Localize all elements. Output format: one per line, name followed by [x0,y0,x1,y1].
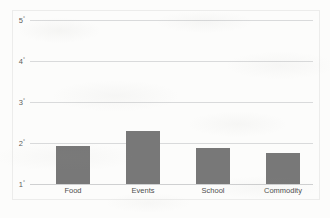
degree-icon: ° [23,97,25,103]
y-axis-tick-3: 3° [19,97,25,108]
x-axis-label-food: Food [64,186,81,195]
x-axis-labels: Food Events School Commodity [30,186,313,202]
gridline-1 [30,184,313,185]
x-axis-label-events: Events [132,186,155,195]
degree-icon: ° [23,56,25,62]
x-axis-label-school: School [202,186,225,195]
bar-events[interactable] [126,131,160,184]
degree-icon: ° [23,179,25,185]
degree-icon: ° [23,15,25,21]
bar-school[interactable] [196,148,230,184]
bars-layer [30,20,313,184]
bar-food[interactable] [56,146,90,184]
bar-chart: 5° 4° 3° 2° 1° Food Events School Commod… [0,0,330,218]
degree-icon: ° [23,138,25,144]
y-axis-tick-1: 1° [19,179,25,190]
y-axis-tick-4: 4° [19,56,25,67]
x-axis-label-commodity: Commodity [264,186,302,195]
plot-area: 5° 4° 3° 2° 1° [30,20,313,184]
y-axis-tick-2: 2° [19,138,25,149]
bar-commodity[interactable] [266,153,300,184]
y-axis-tick-5: 5° [19,15,25,26]
